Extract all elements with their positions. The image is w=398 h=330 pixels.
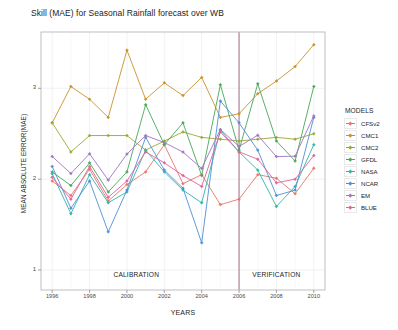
legend-swatch-icon <box>344 178 357 189</box>
legend-items: CFSv2CMC1CMC2GFDLNASANCAREMBLUE <box>344 117 396 213</box>
legend-swatch-icon <box>344 154 357 165</box>
legend-swatch-icon <box>344 118 357 129</box>
legend-item-ncar[interactable]: NCAR <box>344 177 396 189</box>
legend-swatch-icon <box>344 202 357 213</box>
legend-swatch-icon <box>344 130 357 141</box>
y-tick-label: 3 <box>22 84 36 90</box>
x-tick-label: 2002 <box>152 293 176 299</box>
legend-swatch-icon <box>344 190 357 201</box>
legend-label: BLUE <box>361 204 377 211</box>
legend-label: CMC2 <box>361 144 378 151</box>
x-tick-label: 1998 <box>78 293 102 299</box>
legend-item-em[interactable]: EM <box>344 189 396 201</box>
plot-annotation: VERIFICATION <box>231 271 321 278</box>
legend-item-blue[interactable]: BLUE <box>344 201 396 213</box>
legend-swatch-icon <box>344 166 357 177</box>
legend: MODELS CFSv2CMC1CMC2GFDLNASANCAREMBLUE <box>344 107 396 213</box>
legend-item-cfsv2[interactable]: CFSv2 <box>344 117 396 129</box>
chart-svg <box>0 0 398 330</box>
x-tick-label: 1996 <box>40 293 64 299</box>
legend-item-gfdl[interactable]: GFDL <box>344 153 396 165</box>
legend-label: EM <box>361 192 370 199</box>
x-tick-label: 2008 <box>264 293 288 299</box>
legend-item-cmc1[interactable]: CMC1 <box>344 129 396 141</box>
chart-container: Skill (MAE) for Seasonal Rainfall foreca… <box>0 0 398 330</box>
legend-item-nasa[interactable]: NASA <box>344 165 396 177</box>
legend-swatch-icon <box>344 142 357 153</box>
plot-annotation: CALIBRATION <box>91 271 181 278</box>
legend-label: GFDL <box>361 156 377 163</box>
y-tick-label: 2 <box>22 175 36 181</box>
x-tick-label: 2004 <box>190 293 214 299</box>
legend-title: MODELS <box>344 107 396 114</box>
legend-label: NASA <box>361 168 378 175</box>
legend-label: CFSv2 <box>361 120 380 127</box>
legend-item-cmc2[interactable]: CMC2 <box>344 141 396 153</box>
y-tick-label: 1 <box>22 266 36 272</box>
x-tick-label: 2000 <box>115 293 139 299</box>
legend-label: NCAR <box>361 180 378 187</box>
x-tick-label: 2006 <box>227 293 251 299</box>
x-tick-label: 2010 <box>302 293 326 299</box>
legend-label: CMC1 <box>361 132 378 139</box>
